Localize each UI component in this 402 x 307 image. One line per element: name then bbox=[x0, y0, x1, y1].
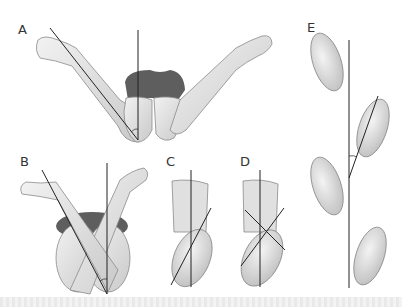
illustration bbox=[0, 0, 402, 307]
panel-b bbox=[21, 163, 148, 294]
footprint-4 bbox=[347, 223, 392, 289]
panel-label-c: C bbox=[166, 154, 175, 169]
leg-axis-line bbox=[50, 28, 138, 140]
panel-e bbox=[304, 29, 395, 289]
panel-label-a: A bbox=[18, 22, 27, 37]
figure: A B C D E bbox=[0, 0, 402, 307]
panel-label-e: E bbox=[307, 20, 315, 35]
panel-d bbox=[233, 170, 292, 293]
panel-a bbox=[36, 28, 272, 142]
footprint-3 bbox=[304, 153, 349, 219]
footprint-2 bbox=[350, 95, 395, 161]
panel-label-b: B bbox=[20, 154, 29, 169]
foot-sole bbox=[233, 223, 292, 293]
footprint-1 bbox=[304, 29, 349, 95]
panel-label-d: D bbox=[240, 154, 250, 169]
angle-arc bbox=[349, 156, 357, 157]
garment bbox=[125, 70, 185, 100]
panel-c bbox=[164, 170, 220, 293]
bottom-border-strip bbox=[0, 297, 402, 307]
right-leg bbox=[170, 36, 272, 134]
